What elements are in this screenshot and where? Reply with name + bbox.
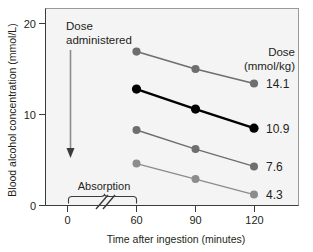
y-tick-label-10: 10 bbox=[24, 109, 36, 121]
y-axis-title: Blood alcohol concentration (mmol/L) bbox=[6, 23, 18, 196]
series-label-10-9: 10.9 bbox=[266, 122, 290, 136]
legend-title: Dose bbox=[268, 46, 295, 58]
blood-alcohol-chart: 20 10 0 Blood alcohol concentration (mmo… bbox=[0, 0, 313, 252]
y-tick-label-0: 0 bbox=[30, 200, 36, 212]
x-tick-label-60: 60 bbox=[130, 214, 142, 226]
legend-subtitle: (mmol/kg) bbox=[244, 60, 295, 72]
data-point bbox=[250, 162, 258, 170]
series-label-4-3: 4.3 bbox=[266, 188, 283, 202]
y-tick-label-20: 20 bbox=[24, 18, 36, 30]
data-point bbox=[250, 79, 258, 87]
x-axis-title: Time after ingestion (minutes) bbox=[107, 233, 246, 245]
data-point bbox=[192, 145, 200, 153]
series-label-14-1: 14.1 bbox=[266, 77, 290, 91]
data-point bbox=[192, 175, 200, 183]
x-tick-label-0: 0 bbox=[64, 214, 70, 226]
data-point bbox=[133, 160, 141, 168]
x-tick-label-120: 120 bbox=[245, 214, 263, 226]
dose-administered-label-line2: administered bbox=[66, 34, 132, 46]
data-point bbox=[133, 126, 141, 134]
data-point bbox=[250, 191, 258, 199]
data-point bbox=[191, 65, 199, 73]
dose-administered-label-line1: Dose bbox=[66, 20, 93, 32]
x-tick-label-90: 90 bbox=[189, 214, 201, 226]
data-point bbox=[191, 105, 200, 114]
series-label-7-6: 7.6 bbox=[266, 160, 283, 174]
data-point bbox=[132, 48, 140, 56]
absorption-label: Absorption bbox=[78, 180, 131, 192]
data-point bbox=[249, 124, 258, 133]
data-point bbox=[132, 85, 141, 94]
